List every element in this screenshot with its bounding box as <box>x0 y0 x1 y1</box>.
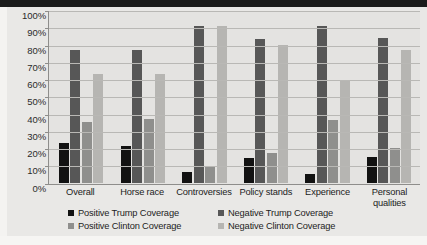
x-axis-label: Horse race <box>111 187 173 208</box>
y-tick-label: 40% <box>4 113 46 124</box>
gridline <box>49 166 420 167</box>
chart-legend: Positive Trump CoverageNegative Trump Co… <box>68 206 368 232</box>
y-tick-label: 20% <box>4 148 46 159</box>
scan-artifact-top-band <box>0 0 427 7</box>
legend-label: Positive Clinton Coverage <box>78 221 181 231</box>
legend-item: Positive Clinton Coverage <box>68 221 218 231</box>
x-axis-label: Policy stands <box>235 187 297 208</box>
y-tick-label: 100% <box>4 10 46 21</box>
y-tick-mark <box>45 115 49 116</box>
legend-item: Negative Trump Coverage <box>218 208 368 218</box>
bar <box>194 26 204 183</box>
gridline <box>49 46 420 47</box>
bar <box>305 174 315 183</box>
y-tick-label: 10% <box>4 165 46 176</box>
y-tick-label: 80% <box>4 44 46 55</box>
y-tick-label: 90% <box>4 27 46 38</box>
legend-item: Positive Trump Coverage <box>68 208 218 218</box>
gridline <box>49 132 420 133</box>
y-tick-label: 50% <box>4 96 46 107</box>
legend-swatch-icon <box>218 223 224 229</box>
gridline <box>49 11 420 12</box>
x-axis-label: Experience <box>297 187 359 208</box>
bar <box>328 120 338 182</box>
y-tick-label: 30% <box>4 130 46 141</box>
x-axis-label: Controversies <box>173 187 235 208</box>
gridline <box>49 115 420 116</box>
bar <box>132 50 142 183</box>
bar <box>317 26 327 183</box>
legend-label: Negative Clinton Coverage <box>228 221 335 231</box>
y-tick-label: 0% <box>4 182 46 193</box>
gridline <box>49 63 420 64</box>
y-tick-mark <box>45 166 49 167</box>
page-margin-bottom <box>0 236 427 245</box>
y-tick-label: 60% <box>4 79 46 90</box>
y-tick-mark <box>45 63 49 64</box>
y-tick-mark <box>45 46 49 47</box>
legend-label: Positive Trump Coverage <box>78 208 179 218</box>
bar <box>401 50 411 183</box>
gridline <box>49 28 420 29</box>
bar <box>121 146 131 182</box>
y-tick-mark <box>45 132 49 133</box>
plot-background <box>48 11 420 185</box>
chart-screenshot: 100%90%80%70%60%50%40%30%20%10%0% Overal… <box>0 0 427 245</box>
legend-swatch-icon <box>68 210 74 216</box>
bar <box>378 38 388 183</box>
gridline <box>49 149 420 150</box>
x-axis-label: Personal qualities <box>359 187 421 208</box>
y-tick-mark <box>45 28 49 29</box>
y-tick-mark <box>45 184 49 185</box>
bar <box>255 39 265 182</box>
bar <box>205 167 215 183</box>
legend-item: Negative Clinton Coverage <box>218 221 368 231</box>
x-axis-labels: OverallHorse raceControversiesPolicy sta… <box>49 187 420 208</box>
y-tick-mark <box>45 11 49 12</box>
legend-swatch-icon <box>218 210 224 216</box>
bar <box>367 157 377 183</box>
legend-swatch-icon <box>68 223 74 229</box>
legend-label: Negative Trump Coverage <box>228 208 333 218</box>
plot-area <box>48 11 420 185</box>
y-tick-mark <box>45 97 49 98</box>
bar <box>144 119 154 183</box>
bar <box>70 50 80 183</box>
bar <box>244 158 254 182</box>
y-tick-mark <box>45 149 49 150</box>
y-tick-mark <box>45 80 49 81</box>
bar <box>182 172 192 182</box>
y-axis: 100%90%80%70%60%50%40%30%20%10%0% <box>0 11 46 185</box>
gridline <box>49 97 420 98</box>
x-axis-label: Overall <box>49 187 111 208</box>
bar <box>267 153 277 182</box>
bar <box>217 26 227 183</box>
bar-chart: 100%90%80%70%60%50%40%30%20%10%0% Overal… <box>0 7 427 245</box>
y-tick-label: 70% <box>4 61 46 72</box>
gridline <box>49 80 420 81</box>
